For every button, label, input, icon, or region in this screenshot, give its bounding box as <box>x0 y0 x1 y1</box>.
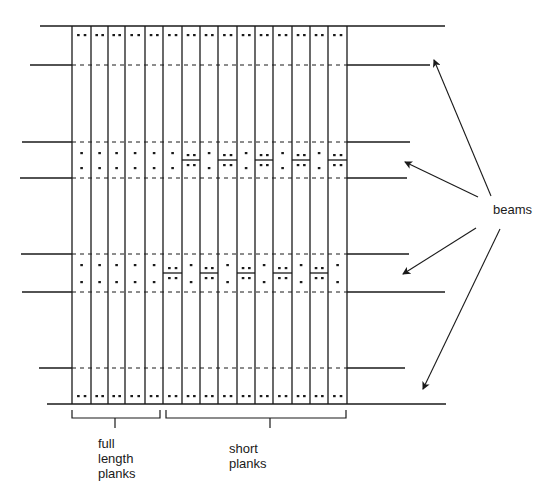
nail <box>315 277 318 279</box>
nail <box>211 277 214 279</box>
nail <box>208 152 211 154</box>
nail <box>223 154 226 156</box>
full-length-planks-label: full length planks <box>98 436 136 481</box>
arrow-icon <box>423 229 500 389</box>
nail <box>285 34 288 36</box>
nail <box>260 34 263 36</box>
plank-beam-diagram <box>0 0 555 493</box>
nail <box>263 264 266 266</box>
nail <box>230 154 233 156</box>
nail <box>303 164 306 166</box>
nail <box>175 395 178 397</box>
nail <box>248 267 251 269</box>
nail <box>175 267 178 269</box>
beam-edges <box>20 26 446 404</box>
nail <box>300 264 303 266</box>
nail <box>223 395 226 397</box>
nail <box>340 395 343 397</box>
label-line: planks <box>98 466 136 481</box>
nail <box>77 395 80 397</box>
nail <box>171 152 174 154</box>
full-length-bracket <box>72 410 160 418</box>
nail <box>187 34 190 36</box>
nail <box>211 34 214 36</box>
nail <box>285 267 288 269</box>
nail <box>134 167 137 169</box>
nail <box>245 152 248 154</box>
nail <box>153 152 156 154</box>
nail <box>266 395 269 397</box>
nail <box>137 395 140 397</box>
beam-arrows <box>403 60 500 389</box>
label-line: length <box>98 451 136 466</box>
nail <box>285 277 288 279</box>
nail <box>260 164 263 166</box>
nail <box>118 395 121 397</box>
nail <box>315 267 318 269</box>
nail <box>248 395 251 397</box>
nail <box>266 164 269 166</box>
nail <box>150 34 153 36</box>
nail <box>340 154 343 156</box>
nail <box>340 164 343 166</box>
nail <box>193 164 196 166</box>
nail <box>134 281 137 283</box>
nail <box>260 395 263 397</box>
nail <box>112 395 115 397</box>
nail <box>315 395 318 397</box>
nail <box>266 154 269 156</box>
nail <box>297 395 300 397</box>
nail <box>168 34 171 36</box>
nail <box>303 154 306 156</box>
nail <box>171 167 174 169</box>
nail <box>266 34 269 36</box>
nail <box>80 281 83 283</box>
nail <box>95 34 98 36</box>
nail <box>226 281 229 283</box>
nail <box>226 264 229 266</box>
nail <box>168 277 171 279</box>
nail <box>190 281 193 283</box>
nail <box>80 152 83 154</box>
nail <box>242 395 245 397</box>
nail <box>245 167 248 169</box>
nail <box>333 154 336 156</box>
nail <box>98 264 101 266</box>
nail <box>168 267 171 269</box>
nail <box>297 164 300 166</box>
nail <box>230 164 233 166</box>
nail <box>278 34 281 36</box>
nail <box>190 264 193 266</box>
nail <box>333 395 336 397</box>
beam-hidden-lines <box>72 65 347 368</box>
nail <box>115 264 118 266</box>
nail <box>130 34 133 36</box>
nail <box>77 34 80 36</box>
nail <box>101 395 104 397</box>
nail <box>153 264 156 266</box>
nail <box>98 281 101 283</box>
nail <box>153 281 156 283</box>
nail <box>156 395 159 397</box>
nail <box>80 167 83 169</box>
nail <box>321 277 324 279</box>
nail <box>318 152 321 154</box>
nail <box>260 154 263 156</box>
nail <box>80 264 83 266</box>
nail <box>205 34 208 36</box>
nail <box>112 34 115 36</box>
nail <box>321 34 324 36</box>
nail <box>168 395 171 397</box>
nail <box>278 395 281 397</box>
nail <box>95 395 98 397</box>
nail <box>336 264 339 266</box>
nail <box>242 34 245 36</box>
nail <box>303 34 306 36</box>
nail <box>84 34 87 36</box>
nail <box>223 34 226 36</box>
nail <box>333 34 336 36</box>
nail <box>297 154 300 156</box>
nail <box>300 281 303 283</box>
nail <box>315 34 318 36</box>
nail <box>193 395 196 397</box>
